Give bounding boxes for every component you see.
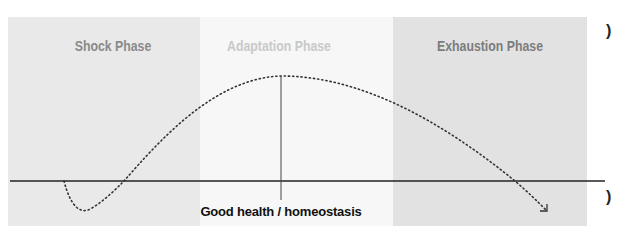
stress-curve <box>64 76 546 211</box>
crescent-icon-top: ) <box>606 24 620 38</box>
stress-response-curve-chart <box>0 0 627 236</box>
baseline-label: Good health / homeostasis <box>200 204 361 219</box>
crescent-icon-bottom: ) <box>606 190 620 204</box>
